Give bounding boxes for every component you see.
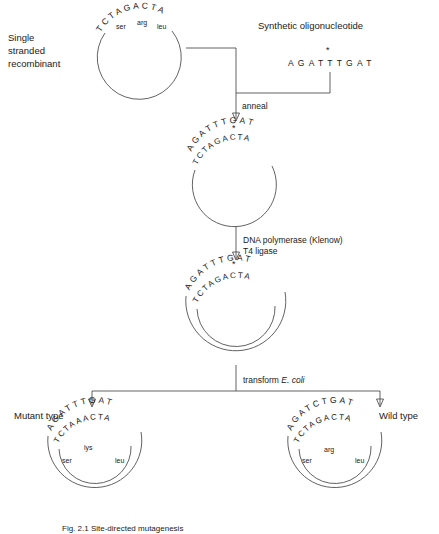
- extended-inner-ring: [197, 306, 275, 347]
- panel-extended: * AGATTTGAT TCTAGACTA: [182, 252, 285, 350]
- panel-annealed: * AGATTTGAT TCTAGACTA: [184, 115, 281, 227]
- oligo-label: Synthetic oligonucleotide: [258, 20, 363, 31]
- single-stranded-label-line1: Single: [8, 32, 34, 43]
- single-stranded-label-line3: recombinant: [8, 58, 61, 69]
- single-stranded-label-line2: stranded: [8, 45, 45, 56]
- transform-prefix: transform: [243, 375, 281, 385]
- wild-outer-strand: AGATCTGAT: [284, 395, 356, 432]
- oligo-mismatch-asterisk: *: [326, 45, 330, 55]
- figure-caption: Fig. 2.1 Site-directed mutagenesis: [62, 524, 183, 533]
- mutagenesis-diagram: Single stranded recombinant TCTAGACTA se…: [0, 0, 439, 534]
- annealed-circle: [192, 166, 276, 227]
- step-transform-label: transform E. coli: [243, 375, 306, 385]
- wild-codon-leu: leu: [355, 457, 364, 464]
- connector-transform: transform E. coli: [89, 365, 384, 407]
- ssdna-codon-arg: arg: [137, 19, 147, 27]
- step-anneal-label: anneal: [242, 101, 268, 111]
- ssdna-codon-ser: ser: [116, 23, 126, 30]
- panel-single-stranded: Single stranded recombinant TCTAGACTA se…: [8, 0, 181, 99]
- panel-wild-type: Wild type AGATCTGAT TCTAGACTA arg ser le…: [284, 395, 418, 488]
- wild-codon-arg: arg: [324, 446, 334, 454]
- mutant-outer-strand: AGATTTGAT: [44, 395, 115, 432]
- ssdna-codon-leu: leu: [157, 23, 166, 30]
- mutant-codon-leu: leu: [115, 457, 124, 464]
- transform-organism: E. coli: [281, 375, 305, 385]
- mutant-codon-lys: lys: [84, 444, 93, 452]
- panel-synthetic-oligo: Synthetic oligonucleotide * AGATTTGAT: [258, 20, 376, 68]
- mutant-codon-ser: ser: [62, 457, 72, 464]
- wild-inner-ring: [299, 446, 371, 484]
- wild-codon-ser: ser: [302, 457, 312, 464]
- mutant-inner-ring: [59, 446, 131, 484]
- panel-mutant-type: Mutant type AGATTTGAT TCTAAACTA lys ser …: [14, 395, 142, 488]
- oligo-sequence: AGATTTGAT: [288, 58, 376, 68]
- ssdna-circle: [97, 31, 181, 99]
- step-polymerase-label: DNA polymerase (Klenow): [243, 235, 343, 245]
- wild-type-label: Wild type: [379, 410, 418, 421]
